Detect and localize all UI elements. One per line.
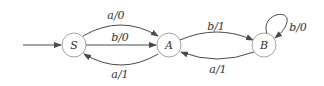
edge-label-b-self-loop: b/0 (289, 21, 307, 34)
edge-a-b-upper: b/1 (180, 20, 253, 40)
node-s: S (62, 33, 86, 57)
edge-label-a-b-upper: b/1 (207, 20, 225, 33)
edge-a-s-lower: a/1 (84, 54, 158, 81)
node-b: B (252, 33, 276, 57)
edge-b-self-loop: b/0 (266, 14, 307, 38)
node-label-b: B (259, 39, 268, 52)
edge-b-a-lower: a/1 (181, 52, 254, 76)
edge-label-s-a-upper: a/0 (107, 9, 124, 22)
node-label-s: S (70, 39, 78, 52)
fsm-diagram: a/0 b/0 a/1 b/1 a/1 b/0 S A B (0, 0, 324, 86)
node-label-a: A (164, 39, 173, 52)
edge-s-a-middle: b/0 (86, 31, 156, 45)
edge-label-a-s-lower: a/1 (111, 68, 128, 81)
node-a: A (157, 33, 181, 57)
edge-label-b-a-lower: a/1 (209, 63, 226, 76)
edge-label-s-a-middle: b/0 (111, 31, 129, 44)
